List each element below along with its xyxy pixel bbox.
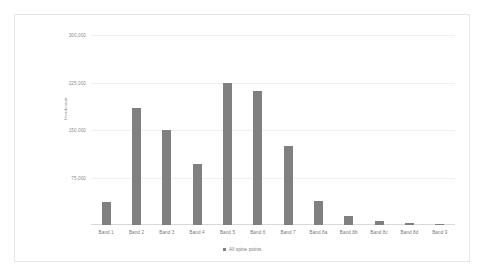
bar[interactable] <box>132 108 141 225</box>
x-axis-tick-label: Band 7 <box>281 230 296 235</box>
y-axis-tick-label: 225,000 <box>69 80 86 85</box>
bar-slot: Band 9 <box>425 35 455 225</box>
x-axis-tick-label: Band 1 <box>99 230 114 235</box>
bar[interactable] <box>435 224 444 225</box>
x-axis-tick-label: Band 8d <box>401 230 419 235</box>
y-axis-tick-label: 75,000 <box>71 175 86 180</box>
bar-slot: Band 3 <box>152 35 182 225</box>
bar[interactable] <box>405 223 414 225</box>
bar[interactable] <box>253 91 262 225</box>
bar[interactable] <box>284 146 293 225</box>
x-axis-tick-label: Band 8a <box>310 230 328 235</box>
bar[interactable] <box>375 221 384 225</box>
bar[interactable] <box>223 83 232 226</box>
x-axis-tick-label: Band 3 <box>159 230 174 235</box>
bar[interactable] <box>314 201 323 225</box>
bar-slot: Band 8c <box>364 35 394 225</box>
chart-legend: All spine points <box>15 247 469 252</box>
x-axis-tick-label: Band 8c <box>370 230 388 235</box>
bar-slot: Band 1 <box>91 35 121 225</box>
bar-slot: Band 6 <box>243 35 273 225</box>
bar-slot: Band 8a <box>303 35 333 225</box>
bar-slot: Band 8d <box>394 35 424 225</box>
bar[interactable] <box>344 216 353 225</box>
bar-series: Band 1Band 2Band 3Band 4Band 5Band 6Band… <box>91 35 455 225</box>
legend-label[interactable]: All spine points <box>229 247 262 252</box>
plot-area: 75,000150,000225,000300,000 Band 1Band 2… <box>91 35 455 225</box>
x-axis-tick-label: Band 9 <box>432 230 447 235</box>
x-axis-tick-label: Band 2 <box>129 230 144 235</box>
y-axis-tick-label: 150,000 <box>69 128 86 133</box>
bar-slot: Band 7 <box>273 35 303 225</box>
bar[interactable] <box>193 164 202 225</box>
chart-card: Headcount 75,000150,000225,000300,000 Ba… <box>14 14 470 262</box>
x-axis-tick-label: Band 5 <box>220 230 235 235</box>
y-axis-title: Headcount <box>63 97 68 120</box>
x-axis-tick-label: Band 4 <box>190 230 205 235</box>
bar-slot: Band 4 <box>182 35 212 225</box>
y-axis-tick-label: 300,000 <box>69 33 86 38</box>
bar[interactable] <box>162 130 171 225</box>
bar-slot: Band 2 <box>121 35 151 225</box>
legend-swatch-icon <box>223 248 227 252</box>
bar[interactable] <box>102 202 111 225</box>
x-axis-tick-label: Band 6 <box>250 230 265 235</box>
bar-slot: Band 8b <box>334 35 364 225</box>
x-axis-tick-label: Band 8b <box>340 230 358 235</box>
bar-slot: Band 5 <box>212 35 242 225</box>
